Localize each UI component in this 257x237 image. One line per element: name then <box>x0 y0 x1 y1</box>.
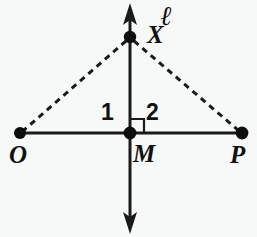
point-o-dot <box>14 127 26 139</box>
diagram-canvas <box>0 0 257 237</box>
geometry-figure: ℓ X O M P 1 2 <box>0 0 257 237</box>
point-m-label: M <box>133 141 155 166</box>
point-p-dot <box>236 127 249 140</box>
point-o-label: O <box>9 142 27 167</box>
point-p-label: P <box>230 142 245 167</box>
angle-1-label: 1 <box>101 101 114 124</box>
point-x-label: X <box>147 22 164 47</box>
point-m-dot <box>124 127 137 140</box>
point-x-dot <box>124 31 136 43</box>
angle-2-label: 2 <box>146 101 159 124</box>
